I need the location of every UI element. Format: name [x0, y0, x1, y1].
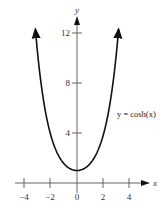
x-axis-arrow-icon — [141, 180, 150, 186]
y-tick-label: 4 — [66, 128, 71, 138]
x-tick-label: 2 — [101, 192, 106, 202]
y-axis-arrow-icon — [74, 16, 80, 25]
y-tick-label: 12 — [61, 28, 70, 38]
x-tick-label: −4 — [19, 192, 29, 202]
curve-label: y = cosh(x) — [117, 109, 156, 119]
x-tick-label: 0 — [75, 192, 80, 202]
y-tick-label: 8 — [66, 78, 71, 88]
x-axis: x −4 −2 0 2 4 — [15, 178, 157, 202]
x-axis-label: x — [152, 178, 157, 188]
x-tick-label: 4 — [127, 192, 132, 202]
y-axis-label: y — [74, 5, 79, 15]
x-tick-label: −2 — [45, 192, 55, 202]
cosh-chart: x −4 −2 0 2 4 y 4 8 12 y = cosh(x) — [0, 0, 164, 210]
